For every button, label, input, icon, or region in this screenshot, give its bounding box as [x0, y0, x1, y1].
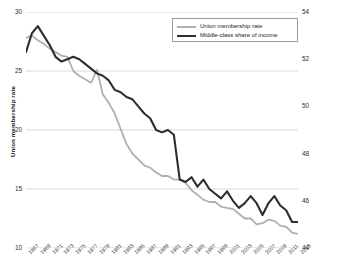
series-line-middle-class-share-of-income	[26, 26, 298, 222]
right-axis-tick: 48	[302, 150, 320, 157]
legend-item-union: Union membership rate	[177, 22, 293, 31]
legend-item-middle-class: Middle-class share of income	[177, 31, 293, 40]
legend-label-middle-class: Middle-class share of income	[200, 31, 278, 40]
left-axis-title: Union membership rate	[9, 76, 16, 168]
right-axis-tick: 54	[302, 8, 320, 15]
plot-svg	[26, 12, 298, 248]
chart-container: Union membership rate Middle-class share…	[0, 0, 349, 276]
legend-label-union: Union membership rate	[200, 22, 262, 31]
left-axis-tick: 30	[4, 8, 22, 15]
left-axis-tick: 20	[4, 126, 22, 133]
gridlines	[26, 12, 298, 248]
right-axis-tick: 50	[302, 102, 320, 109]
left-axis-tick: 25	[4, 67, 22, 74]
legend-swatch-union-line	[177, 26, 196, 28]
right-axis-tick: 52	[302, 55, 320, 62]
right-axis-tick: 46	[302, 197, 320, 204]
plot-area	[26, 12, 298, 248]
legend: Union membership rate Middle-class share…	[172, 18, 298, 42]
left-axis-tick: 15	[4, 185, 22, 192]
left-axis-tick: 10	[4, 244, 22, 251]
legend-swatch-middle-class-line	[177, 35, 196, 37]
